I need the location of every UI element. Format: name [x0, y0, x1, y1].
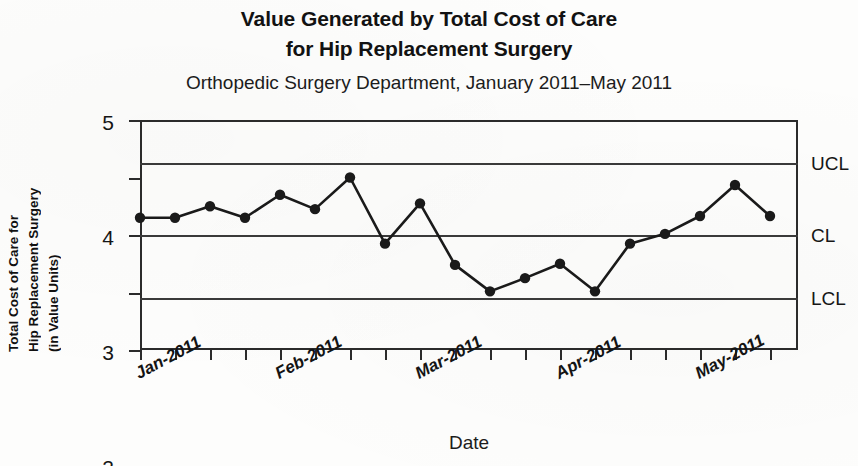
- data-point: [590, 286, 600, 296]
- data-point: [205, 201, 215, 211]
- data-point: [450, 260, 460, 270]
- x-axis-tick: [210, 350, 212, 360]
- y-axis-tick: 2: [129, 293, 140, 295]
- plot-area: 12345 Jan-2011Feb-2011Mar-2011Apr-2011Ma…: [140, 120, 798, 350]
- y-axis-tick: 3: [129, 235, 140, 237]
- y-axis-tick: 4: [129, 178, 140, 180]
- series-markers: [135, 172, 775, 296]
- x-axis-tick: [420, 350, 422, 360]
- y-axis-tick: 1: [129, 350, 140, 352]
- x-axis-title: Date: [140, 432, 798, 454]
- y-axis-tick-label: 4: [102, 227, 114, 248]
- data-point: [765, 211, 775, 221]
- chart-title-line-2: for Hip Replacement Surgery: [0, 34, 858, 64]
- control-limit-label-cl: CL: [811, 226, 835, 245]
- data-point: [275, 190, 285, 200]
- control-limit-label-lcl: LCL: [811, 289, 846, 308]
- chart-title-line-1: Value Generated by Total Cost of Care: [0, 4, 858, 34]
- x-axis-tick: [630, 350, 632, 360]
- data-series-line: [140, 120, 798, 350]
- y-axis-tick-label: 2: [102, 457, 114, 466]
- data-point: [695, 211, 705, 221]
- x-axis-tick: [385, 350, 387, 360]
- data-point: [485, 286, 495, 296]
- y-axis-tick: 5: [129, 120, 140, 122]
- data-point: [310, 204, 320, 214]
- y-axis-title-line-3: (in Value Units): [46, 120, 61, 352]
- y-axis-tick-label: 5: [102, 112, 114, 133]
- y-axis-tick-label: 3: [102, 342, 114, 363]
- control-limit-label-ucl: UCL: [811, 154, 849, 173]
- data-point: [170, 213, 180, 223]
- x-axis-tick: [665, 350, 667, 360]
- x-axis-tick: [770, 350, 772, 360]
- data-point: [415, 198, 425, 208]
- series-polyline: [140, 178, 770, 292]
- y-axis-title-line-2: Hip Replacement Surgery: [26, 120, 41, 352]
- data-point: [625, 238, 635, 248]
- chart-title-block: Value Generated by Total Cost of Care fo…: [0, 4, 858, 97]
- data-point: [520, 273, 530, 283]
- x-axis-tick: [245, 350, 247, 360]
- data-point: [345, 172, 355, 182]
- x-axis-tick: [490, 350, 492, 360]
- x-axis-tick: [140, 350, 142, 360]
- y-axis-title-line-1: Total Cost of Care for: [6, 120, 21, 352]
- x-axis-tick: [350, 350, 352, 360]
- x-axis-tick: [560, 350, 562, 360]
- x-axis-tick: [700, 350, 702, 360]
- data-point: [135, 213, 145, 223]
- x-axis-tick: [280, 350, 282, 360]
- data-point: [730, 180, 740, 190]
- y-axis-title: Total Cost of Care for Hip Replacement S…: [2, 120, 66, 352]
- chart-subtitle: Orthopedic Surgery Department, January 2…: [0, 69, 858, 97]
- data-point: [555, 259, 565, 269]
- x-axis-tick: [525, 350, 527, 360]
- data-point: [660, 229, 670, 239]
- data-point: [380, 238, 390, 248]
- data-point: [240, 213, 250, 223]
